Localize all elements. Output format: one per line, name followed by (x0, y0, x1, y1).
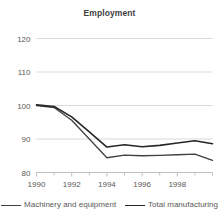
chart-legend: Machinery and equipment Total manufactur… (0, 200, 219, 210)
x-axis-tick-labels: 19901992199419961998 (28, 180, 187, 189)
legend-item-label: Machinery and equipment (24, 200, 116, 210)
x-axis-tick-label: 1990 (28, 180, 46, 189)
data-series-lines (37, 105, 213, 161)
y-axis-tick-labels: 8090100110120 (17, 35, 31, 178)
y-axis-tick-label: 90 (22, 135, 31, 144)
legend-line-swatch-icon (1, 205, 21, 206)
y-axis-tick-label: 100 (17, 102, 31, 111)
chart-plot-area: 8090100110120 19901992199419961998 (0, 0, 219, 220)
legend-item-total-manufacturing[interactable]: Total manufacturing (125, 200, 218, 210)
legend-item-machinery-and-equipment[interactable]: Machinery and equipment (1, 200, 116, 210)
y-axis-tick-label: 120 (17, 35, 31, 44)
x-axis-tick-label: 1992 (63, 180, 81, 189)
gridlines (37, 39, 213, 140)
legend-item-label: Total manufacturing (148, 200, 218, 210)
legend-line-swatch-icon (125, 205, 145, 206)
x-axis-ticks (37, 173, 213, 177)
x-axis-tick-label: 1996 (133, 180, 151, 189)
y-axis-tick-label: 110 (18, 68, 31, 77)
series-line (37, 105, 213, 147)
y-axis-tick-label: 80 (22, 169, 31, 178)
series-line (37, 106, 213, 161)
x-axis-tick-label: 1994 (98, 180, 116, 189)
x-axis-tick-label: 1998 (168, 180, 186, 189)
employment-chart: Employment 8090100110120 199019921994199… (0, 0, 219, 220)
